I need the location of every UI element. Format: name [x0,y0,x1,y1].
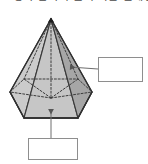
base-face-answer-box[interactable] [28,138,78,160]
lateral-face-answer-box[interactable] [98,57,143,82]
apex-vertex-dot [48,18,54,23]
worksheet-figure-page: 도형의 면의 수를 구하는 문제입니다 [0,0,148,164]
